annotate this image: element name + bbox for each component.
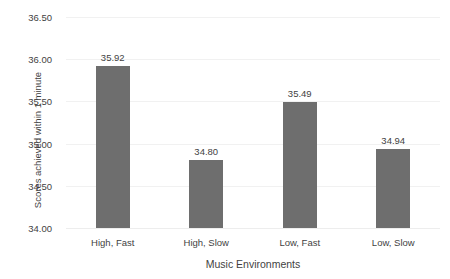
gridline bbox=[66, 17, 440, 18]
plot-area: 36.5036.0035.5035.0034.5034.0035.9234.80… bbox=[66, 17, 440, 228]
gridline bbox=[66, 228, 440, 229]
bar-value-label: 35.49 bbox=[270, 89, 330, 99]
bar[interactable] bbox=[189, 160, 223, 228]
bar-value-label: 34.94 bbox=[363, 136, 423, 146]
x-axis-title: Music Environments bbox=[66, 258, 440, 270]
y-axis-tick-label: 35.50 bbox=[0, 97, 52, 107]
y-axis-tick-label: 36.50 bbox=[0, 13, 52, 23]
chart-title bbox=[0, 0, 450, 4]
bar[interactable] bbox=[96, 66, 130, 228]
y-axis-tick-label: 36.00 bbox=[0, 55, 52, 65]
y-axis-tick-label: 34.50 bbox=[0, 182, 52, 192]
x-axis-category-label: Low, Fast bbox=[255, 238, 345, 248]
x-axis-category-label: High, Slow bbox=[161, 238, 251, 248]
y-axis-tick-label: 35.00 bbox=[0, 140, 52, 150]
bar-chart: Scores achieved within 1 minute 36.5036.… bbox=[0, 0, 450, 279]
y-axis-tick-label: 34.00 bbox=[0, 224, 52, 234]
bar[interactable] bbox=[376, 149, 410, 228]
x-axis-category-label: Low, Slow bbox=[348, 238, 438, 248]
bar-value-label: 34.80 bbox=[176, 147, 236, 157]
x-axis-category-label: High, Fast bbox=[68, 238, 158, 248]
bar[interactable] bbox=[283, 102, 317, 228]
bar-value-label: 35.92 bbox=[83, 53, 143, 63]
